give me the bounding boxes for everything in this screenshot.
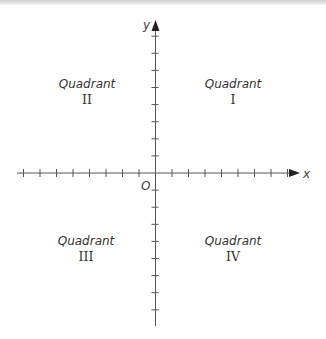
quadrant-iii-label: Quadrant III [58, 234, 116, 264]
quadrant-ii-label: Quadrant II [59, 77, 117, 107]
quadrant-numeral: I [231, 92, 236, 107]
quadrant-word: Quadrant [205, 77, 263, 91]
coordinate-plane: x y O Quadrant II Quadrant I Quadrant II… [0, 0, 326, 339]
quadrant-word: Quadrant [58, 234, 116, 248]
y-arrow-icon [152, 20, 160, 31]
quadrant-numeral: III [79, 249, 94, 264]
x-axis-label: x [302, 167, 311, 181]
quadrant-numeral: IV [226, 249, 241, 264]
x-arrow-icon [289, 169, 300, 177]
quadrant-i-label: Quadrant I [205, 77, 263, 107]
quadrant-word: Quadrant [205, 234, 263, 248]
quadrant-word: Quadrant [59, 77, 117, 91]
origin-label: O [141, 179, 150, 193]
y-axis-label: y [142, 18, 151, 32]
quadrant-numeral: II [82, 92, 92, 107]
x-axis [17, 169, 300, 177]
quadrant-iv-label: Quadrant IV [205, 234, 263, 264]
